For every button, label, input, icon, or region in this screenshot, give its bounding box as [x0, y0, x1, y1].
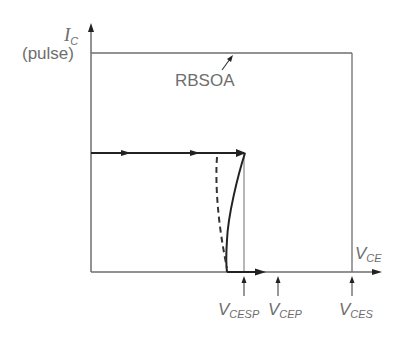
- x-axis-label: VCE: [355, 244, 382, 264]
- marker-sub: CEP: [279, 308, 302, 320]
- marker-sub: CES: [350, 308, 373, 320]
- marker-sub: CESP: [229, 308, 259, 320]
- rbsoa-label: RBSOA: [175, 71, 235, 91]
- trajectory-arrow-icon: [255, 269, 266, 276]
- marker-arrows: [242, 276, 355, 296]
- x-label-sub: CE: [366, 252, 381, 264]
- marker-main: V: [268, 300, 279, 319]
- y-axis: [88, 23, 94, 272]
- trajectory-arrow-icon: [121, 150, 131, 156]
- pointer-arrow-icon: [227, 55, 233, 62]
- vces-arrow-icon: [350, 276, 355, 283]
- trajectory-horizontal: [91, 149, 246, 157]
- vcesp-arrow-icon: [242, 276, 247, 283]
- y-axis-arrow-icon: [88, 23, 94, 32]
- marker-main: V: [218, 300, 229, 319]
- marker-label-vcesp: VCESP: [218, 300, 259, 320]
- trajectory-dashed-curve: [216, 157, 227, 268]
- y-axis-label: IC: [64, 24, 78, 46]
- marker-main: V: [339, 300, 350, 319]
- y-axis-note: (pulse): [22, 44, 74, 64]
- marker-label-vces: VCES: [339, 300, 373, 320]
- vcep-arrow-icon: [276, 276, 281, 283]
- trajectory-arrow-icon: [190, 150, 200, 156]
- trajectory-bottom: [227, 269, 266, 276]
- rbsoa-pointer: [222, 55, 233, 70]
- x-axis-arrow-icon: [372, 269, 382, 275]
- x-label-main: V: [355, 244, 366, 263]
- trajectory-solid-curve: [226, 153, 245, 272]
- marker-label-vcep: VCEP: [268, 300, 302, 320]
